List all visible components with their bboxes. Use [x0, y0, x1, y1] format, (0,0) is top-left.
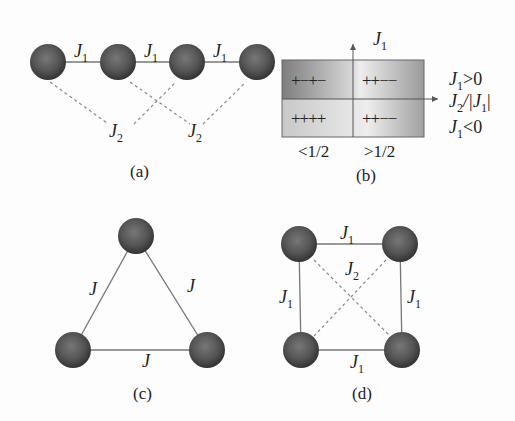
j1-label: J1 — [340, 224, 354, 246]
tick-greater-half: >1/2 — [364, 143, 395, 160]
nnn-bond — [130, 82, 190, 124]
panel-c-triangle — [55, 218, 225, 368]
phase-cell-top-right: ++−− — [362, 72, 396, 89]
caption-d: (d) — [352, 385, 372, 402]
j1-positive-label: J1>0 — [449, 70, 482, 92]
j2-label: J2 — [188, 122, 202, 144]
site-node — [239, 44, 275, 80]
j1-label: J1 — [279, 288, 293, 310]
caption-a: (a) — [130, 163, 149, 180]
panel-d-square — [281, 226, 420, 368]
nnn-bond — [50, 82, 107, 123]
nnn-bond — [203, 82, 246, 124]
j1-label: J1 — [74, 42, 88, 64]
j1-negative-label: J1<0 — [449, 118, 482, 140]
caption-b: (b) — [356, 167, 376, 184]
phase-cell-bottom-left: ++++ — [291, 110, 325, 127]
site-node — [100, 44, 136, 80]
site-node — [384, 332, 420, 368]
j1-label: J1 — [213, 42, 227, 64]
phase-cell-top-left: +−+− — [291, 72, 325, 89]
tick-less-half: <1/2 — [298, 143, 329, 160]
site-node — [55, 332, 91, 368]
site-node — [281, 226, 317, 262]
j-label: J — [89, 280, 97, 298]
j1-label: J1 — [350, 353, 364, 375]
bond — [136, 236, 207, 350]
site-node — [118, 218, 154, 254]
site-node — [382, 226, 418, 262]
j1-label: J1 — [144, 42, 158, 64]
j-label: J — [187, 277, 195, 295]
site-node — [169, 44, 205, 80]
j2-label: J2 — [345, 260, 359, 282]
nnn-bond — [134, 82, 176, 124]
j-label: J — [142, 352, 150, 370]
j1-label: J1 — [407, 288, 421, 310]
j2-axis-label: J2/|J1| — [449, 92, 491, 114]
site-node — [189, 332, 225, 368]
site-node — [283, 332, 319, 368]
bond — [73, 236, 136, 350]
caption-c: (c) — [133, 385, 152, 402]
site-node — [30, 44, 66, 80]
phase-cell-bottom-right: ++−− — [362, 110, 396, 127]
j2-label: J2 — [109, 122, 123, 144]
j1-axis-label: J1 — [373, 30, 387, 52]
